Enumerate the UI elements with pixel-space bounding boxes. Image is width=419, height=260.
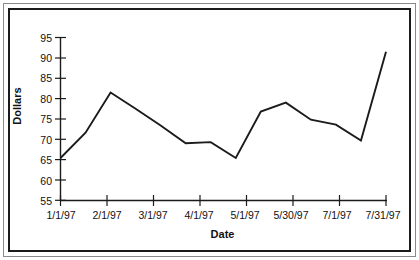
chart-figure: Dollars Date 95 90 85 80 75 70 65 60 55 … xyxy=(0,0,419,260)
plot-area: Dollars Date 95 90 85 80 75 70 65 60 55 … xyxy=(0,0,419,260)
chart-canvas xyxy=(0,0,419,260)
data-series-line xyxy=(61,52,387,158)
